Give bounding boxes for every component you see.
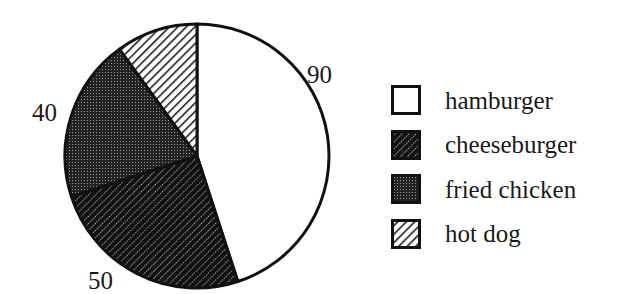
swatch-hamburger-icon — [391, 85, 421, 115]
legend-item-fried-chicken: fried chicken — [391, 167, 576, 212]
slice-label-cheeseburger: 50 — [88, 268, 113, 293]
legend-item-hot-dog: hot dog — [391, 212, 576, 257]
legend: hamburger cheeseburger fried chicken hot… — [391, 78, 576, 256]
swatch-fried-chicken-icon — [391, 174, 421, 204]
legend-item-hamburger: hamburger — [391, 78, 576, 123]
legend-label: fried chicken — [445, 177, 576, 202]
slice-label-fried-chicken: 40 — [32, 100, 57, 125]
slice-label-hamburger: 90 — [307, 62, 332, 87]
legend-item-cheeseburger: cheeseburger — [391, 123, 576, 168]
legend-label: hot dog — [445, 221, 521, 246]
swatch-hot-dog-icon — [391, 219, 421, 249]
legend-label: hamburger — [445, 88, 553, 113]
legend-label: cheeseburger — [445, 132, 576, 157]
swatch-cheeseburger-icon — [391, 130, 421, 160]
